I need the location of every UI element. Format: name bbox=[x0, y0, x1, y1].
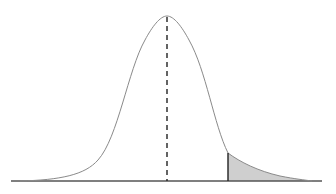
bell-curve bbox=[20, 16, 312, 181]
shaded-tail-area bbox=[228, 153, 312, 181]
normal-distribution-diagram bbox=[0, 0, 336, 194]
